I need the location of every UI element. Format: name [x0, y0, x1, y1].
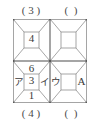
bottom-left-right-kana: イ	[39, 77, 50, 87]
bottom-left-column-label: ( 4 )	[12, 107, 50, 119]
bottom-right-column-label: ( )	[52, 107, 90, 119]
grid-figure: 4 6 3 1 ア イ ウ A	[13, 19, 87, 103]
top-left-inner-value: 4	[24, 33, 39, 44]
cell-top-right-lines	[50, 19, 86, 60]
top-label-row: ( 3 ) ( )	[0, 3, 100, 17]
bottom-right-left-kana: ウ	[51, 77, 61, 87]
bottom-left-above-value: 6	[24, 63, 39, 74]
bottom-left-inner-value: 3	[24, 75, 39, 86]
bottom-left-below-value: 1	[24, 90, 39, 101]
bottom-left-left-kana: ア	[14, 77, 24, 87]
diagram-page: ( 3 ) ( )	[0, 0, 100, 125]
bottom-right-right-label: A	[76, 76, 87, 87]
top-right-column-label: ( )	[52, 4, 90, 16]
bottom-label-row: ( 4 ) ( )	[0, 106, 100, 120]
top-left-column-label: ( 3 )	[12, 4, 50, 16]
